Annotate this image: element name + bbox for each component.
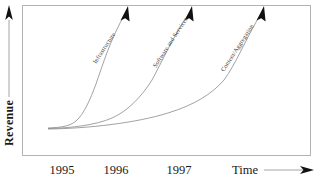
y-axis-label: Revenue: [2, 100, 16, 146]
x-tick-label-1995: 1995: [50, 163, 75, 177]
x-tick-label-1996: 1996: [104, 163, 129, 177]
up-arrow-icon: [5, 5, 13, 20]
curve-software-and-services: [48, 12, 190, 129]
plot-frame: [23, 6, 311, 156]
x-tick-label-1997: 1997: [167, 163, 192, 177]
curve-label-software-and-services: Software and Services: [151, 15, 189, 68]
revenue-over-time-chart: Revenue Infrastructure Software and Serv…: [0, 0, 322, 183]
curve-label-infrastructure: Infrastructure: [91, 31, 116, 65]
curve-label-content-aggregation: Content/Aggregation: [219, 23, 255, 73]
x-axis-label: Time: [232, 163, 258, 177]
curve-content-aggregation: [48, 12, 262, 129]
curve-content-aggregation-arrow-icon: [257, 6, 266, 22]
curve-infrastructure: [48, 12, 126, 128]
curve-infrastructure-arrow-icon: [121, 6, 130, 22]
